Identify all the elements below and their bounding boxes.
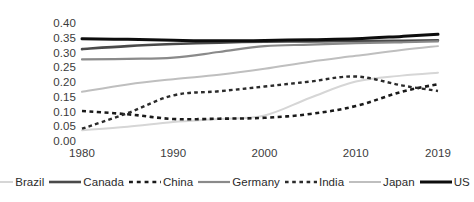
legend-label: Germany bbox=[232, 176, 284, 188]
legend-item-japan[interactable]: Japan bbox=[348, 176, 419, 188]
legend-swatch-germany-icon bbox=[197, 177, 231, 187]
legend-label: Japan bbox=[383, 176, 419, 188]
legend-item-india[interactable]: India bbox=[284, 176, 348, 188]
legend-label: US bbox=[454, 176, 474, 188]
legend-item-china[interactable]: China bbox=[128, 176, 197, 188]
legend-label: India bbox=[319, 176, 348, 188]
x-axis-tick-label: 2000 bbox=[235, 146, 295, 160]
x-axis-tick-label: 2010 bbox=[326, 146, 386, 160]
legend-item-brazil[interactable]: Brazil bbox=[0, 176, 48, 188]
legend-item-canada[interactable]: Canada bbox=[48, 176, 128, 188]
legend-item-germany[interactable]: Germany bbox=[197, 176, 284, 188]
legend-swatch-brazil-icon bbox=[0, 177, 14, 187]
plot-area bbox=[0, 0, 454, 152]
x-axis-tick-label: 1990 bbox=[143, 146, 203, 160]
legend-swatch-japan-icon bbox=[348, 177, 382, 187]
legend-swatch-us-icon bbox=[419, 177, 453, 187]
series-line-germany bbox=[82, 41, 438, 59]
x-axis-tick-label: 1980 bbox=[52, 146, 112, 160]
series-line-japan bbox=[82, 46, 438, 92]
legend-label: Brazil bbox=[15, 176, 48, 188]
series-line-brazil bbox=[82, 73, 438, 131]
legend-swatch-canada-icon bbox=[48, 177, 82, 187]
legend-label: Canada bbox=[83, 176, 128, 188]
legend-swatch-india-icon bbox=[284, 177, 318, 187]
legend-swatch-china-icon bbox=[128, 177, 162, 187]
legend-label: China bbox=[163, 176, 197, 188]
x-axis-tick-label: 2019 bbox=[408, 146, 468, 160]
x-axis: 19801990200020102019 bbox=[0, 146, 454, 168]
chart-legend: BrazilCanadaChinaGermanyIndiaJapanUS bbox=[0, 170, 454, 194]
series-lines bbox=[0, 0, 454, 152]
series-line-china bbox=[82, 84, 438, 119]
legend-item-us[interactable]: US bbox=[419, 176, 474, 188]
